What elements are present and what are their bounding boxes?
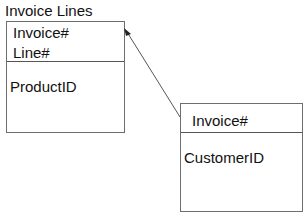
relationship-arrow <box>0 0 306 214</box>
arrowhead-icon <box>124 28 131 36</box>
